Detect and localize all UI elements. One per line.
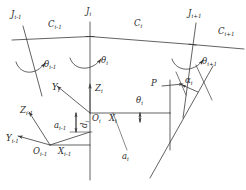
label-point-p: P [151, 79, 157, 88]
rotation-arc-next [172, 59, 203, 69]
leader-a-cur [113, 113, 140, 150]
label-axis-y-prev: Yi-1 [6, 134, 19, 143]
label-axis-x-prev: Xi-1 [58, 147, 71, 156]
label-theta-cur-mid: θi [136, 96, 143, 105]
label-origin-prev: Oi-1 [33, 147, 47, 156]
label-link-prev: Ci-1 [48, 20, 62, 29]
link-descender-right [150, 66, 213, 178]
label-link-cur: Ci [134, 19, 142, 28]
rotation-arc-cur [70, 58, 101, 68]
label-joint-prev: Ji-1 [11, 10, 22, 19]
label-a-cur: ai [122, 152, 129, 161]
label-joint-cur: Ji [86, 7, 91, 16]
joint-axis-next [183, 23, 196, 118]
label-axis-y-cur: Yi [52, 83, 59, 92]
label-joint-next: Ji+1 [188, 9, 201, 18]
label-theta-prev: θi-1 [44, 60, 56, 69]
label-d-cur: di [80, 121, 89, 128]
rotation-arc-prev [16, 62, 45, 72]
label-axis-z-prev: Zi-1 [20, 106, 33, 115]
kinematic-diagram: Ji-1 Ci-1 Ji Ci Ji+1 Ci+1 θi-1 θi θi+1 θ… [0, 0, 246, 190]
joint-tick-next [189, 44, 196, 45]
joint-axis-prev [23, 26, 42, 96]
link-polyline [12, 37, 244, 50]
label-theta-next: θi+1 [202, 57, 217, 66]
label-alpha-cur: αi [185, 76, 193, 85]
common-normal-prev [50, 132, 90, 145]
label-link-next: Ci+1 [218, 27, 235, 36]
label-a-prev: ai-1 [54, 121, 66, 130]
label-axis-x-cur: Xi [109, 114, 117, 123]
diagram-canvas [0, 0, 246, 190]
label-theta-cur: θi [101, 56, 108, 65]
axis-y-cur [57, 86, 90, 113]
label-axis-z-cur: Zi [95, 84, 103, 93]
label-origin-cur: Oi [92, 114, 101, 123]
